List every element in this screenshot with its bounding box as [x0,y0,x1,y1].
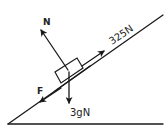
pull-force-label: 325N [107,23,135,47]
normal-force-arrow [41,30,68,70]
normal-force-label: N [43,17,51,27]
weight-force-label: 3gN [70,107,90,118]
free-body-diagram: N F 3gN 325N [0,0,168,135]
friction-force-label: F [37,86,43,96]
